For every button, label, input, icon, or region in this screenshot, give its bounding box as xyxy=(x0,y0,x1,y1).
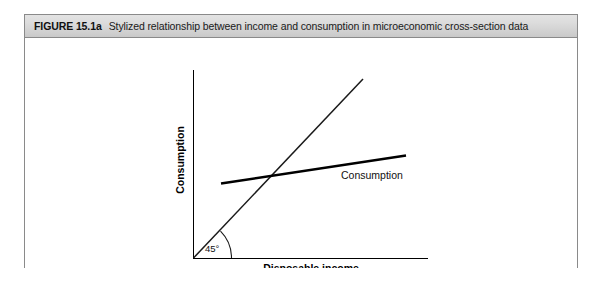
forty-five-degree-line xyxy=(194,79,364,258)
figure-title-label: Stylized relationship between income and… xyxy=(109,20,529,32)
x-axis-title: Disposable income xyxy=(263,262,359,268)
figure-caption-bar: FIGURE 15.1a Stylized relationship betwe… xyxy=(25,15,577,38)
figure-number-label: FIGURE 15.1a xyxy=(34,20,102,32)
plot-area: 45° Consumption Disposable income Consum… xyxy=(25,38,577,268)
y-axis-title: Consumption xyxy=(174,126,186,194)
chart-canvas: 45° Consumption Disposable income Consum… xyxy=(25,38,577,268)
figure-frame: FIGURE 15.1a Stylized relationship betwe… xyxy=(24,14,578,268)
consumption-series-label: Consumption xyxy=(341,169,403,181)
angle-arc-icon xyxy=(221,231,232,258)
angle-45-label: 45° xyxy=(205,243,220,254)
